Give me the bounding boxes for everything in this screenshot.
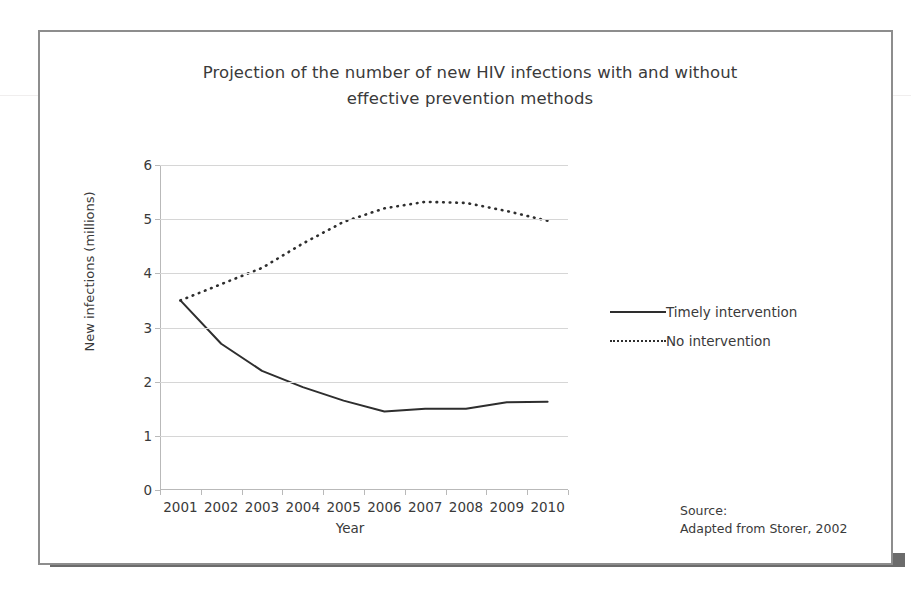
gridline: [160, 165, 568, 166]
x-tick-label: 2004: [286, 499, 320, 515]
y-tick-mark: [155, 328, 160, 329]
x-tick-label: 2005: [326, 499, 360, 515]
legend-swatch-solid-line-icon: [610, 306, 666, 318]
y-tick-mark: [155, 273, 160, 274]
gridline: [160, 436, 568, 437]
plot-area: 0123456200120022003200420052006200720082…: [160, 165, 568, 490]
x-tick-label: 2009: [490, 499, 524, 515]
x-tick-label: 2010: [530, 499, 564, 515]
x-tick-label: 2006: [367, 499, 401, 515]
x-tick-label: 2008: [449, 499, 483, 515]
x-tick-mark: [364, 490, 365, 495]
x-tick-mark: [282, 490, 283, 495]
source-label: Source:: [680, 502, 847, 520]
gridline: [160, 273, 568, 274]
y-tick-mark: [155, 165, 160, 166]
y-axis-title: New infections (millions): [82, 147, 97, 397]
x-axis-title: Year: [120, 520, 580, 536]
legend-label-no-intervention: No intervention: [666, 333, 771, 349]
y-tick-mark: [155, 382, 160, 383]
y-tick-label: 2: [143, 374, 152, 390]
x-tick-mark: [323, 490, 324, 495]
y-tick-label: 3: [143, 320, 152, 336]
x-tick-mark: [568, 490, 569, 495]
gridline: [160, 328, 568, 329]
legend-swatch-dotted-line-icon: [610, 335, 666, 347]
chart-legend: Timely intervention No intervention: [610, 297, 860, 355]
y-tick-label: 6: [143, 157, 152, 173]
y-tick-mark: [155, 436, 160, 437]
y-tick-mark: [155, 219, 160, 220]
series-line-timely-intervention: [180, 300, 547, 411]
y-tick-label: 5: [143, 211, 152, 227]
legend-item-timely-intervention: Timely intervention: [610, 297, 860, 326]
plot-wrapper: New infections (millions) Year 012345620…: [40, 32, 895, 563]
legend-item-no-intervention: No intervention: [610, 326, 860, 355]
y-tick-label: 4: [143, 265, 152, 281]
x-tick-label: 2007: [408, 499, 442, 515]
x-tick-mark: [486, 490, 487, 495]
x-tick-label: 2002: [204, 499, 238, 515]
gridline: [160, 219, 568, 220]
x-tick-label: 2001: [163, 499, 197, 515]
legend-label-timely-intervention: Timely intervention: [666, 304, 797, 320]
y-tick-label: 1: [143, 428, 152, 444]
x-tick-mark: [242, 490, 243, 495]
x-tick-mark: [446, 490, 447, 495]
x-tick-mark: [405, 490, 406, 495]
x-tick-mark: [160, 490, 161, 495]
x-tick-mark: [201, 490, 202, 495]
y-tick-label: 0: [143, 482, 152, 498]
x-tick-label: 2003: [245, 499, 279, 515]
source-note: Source: Adapted from Storer, 2002: [680, 502, 847, 538]
x-tick-mark: [527, 490, 528, 495]
figure-frame: Projection of the number of new HIV infe…: [38, 30, 893, 565]
gridline: [160, 382, 568, 383]
source-citation: Adapted from Storer, 2002: [680, 520, 847, 538]
series-line-no-intervention: [180, 202, 547, 301]
